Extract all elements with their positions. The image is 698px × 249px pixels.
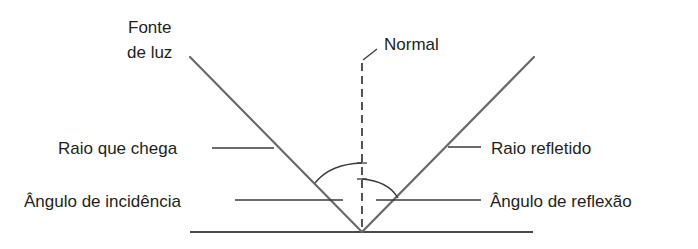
angle-of-incidence-arc <box>315 163 362 183</box>
angle-incidence-label: Ângulo de incidência <box>24 192 181 211</box>
normal-leader <box>363 49 377 60</box>
angle-of-reflection-arc <box>362 179 398 198</box>
light-source-label-line1: Fonte <box>128 18 171 37</box>
incident-ray <box>190 57 362 232</box>
angle-reflection-label: Ângulo de reflexão <box>490 192 632 211</box>
normal-label: Normal <box>384 35 439 54</box>
incident-ray-label: Raio que chega <box>58 139 178 158</box>
reflected-ray-label: Raio refletido <box>491 139 591 158</box>
light-source-label-line2: de luz <box>127 43 172 62</box>
reflection-diagram: Fonte de luz Normal Raio que chega Ângul… <box>0 0 698 249</box>
